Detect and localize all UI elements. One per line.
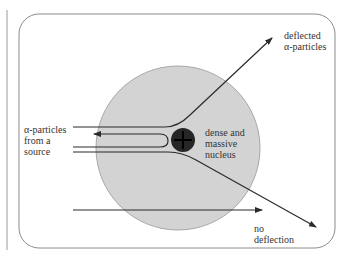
label-nucleus: dense and massive nucleus: [205, 127, 245, 160]
nucleus: [171, 128, 195, 152]
label-no-deflection: no deflection: [254, 223, 294, 245]
label-deflected: deflected α-particles: [284, 30, 326, 52]
label-source: α-particles from a source: [24, 124, 66, 157]
